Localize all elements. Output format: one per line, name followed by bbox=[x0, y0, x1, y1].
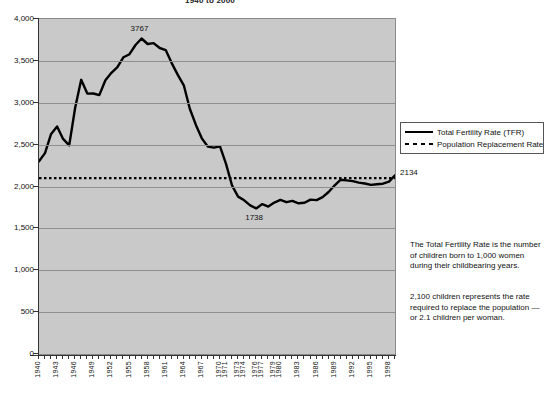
x-axis-tick bbox=[159, 355, 160, 359]
legend-item-tfr: Total Fertility Rate (TFR) bbox=[405, 126, 539, 138]
x-axis-tick bbox=[74, 355, 75, 359]
x-axis-tick bbox=[328, 355, 329, 359]
x-axis-tick bbox=[38, 355, 39, 359]
x-axis-tick bbox=[189, 355, 190, 359]
x-axis-tick bbox=[213, 355, 214, 359]
x-axis-tick bbox=[147, 355, 148, 359]
x-axis-tick bbox=[56, 355, 57, 359]
x-axis-tick bbox=[116, 355, 117, 359]
x-axis-tick bbox=[346, 355, 347, 359]
legend-line-dashed-icon bbox=[405, 139, 433, 149]
x-axis-tick bbox=[382, 355, 383, 359]
x-axis-tick bbox=[171, 355, 172, 359]
x-axis-label: 1949 bbox=[88, 361, 95, 378]
y-axis-tick bbox=[33, 186, 38, 187]
x-axis-label: 1971 bbox=[221, 361, 228, 378]
x-axis-tick bbox=[104, 355, 105, 359]
x-axis-tick bbox=[291, 355, 292, 359]
x-axis-label: 1952 bbox=[106, 361, 113, 378]
x-axis-label: 1995 bbox=[366, 361, 373, 378]
x-axis-tick bbox=[249, 355, 250, 359]
x-axis-tick bbox=[310, 355, 311, 359]
x-axis-label: 1977 bbox=[257, 361, 264, 378]
y-axis-tick bbox=[33, 60, 38, 61]
y-axis-label: 0 bbox=[0, 349, 34, 358]
x-axis-tick bbox=[129, 355, 130, 359]
x-axis-tick bbox=[165, 355, 166, 359]
x-axis-label: 1967 bbox=[197, 361, 204, 378]
x-axis-tick bbox=[50, 355, 51, 359]
x-axis-tick bbox=[135, 355, 136, 359]
y-axis-label: 3,500 bbox=[0, 55, 34, 64]
y-axis-label: 4,000 bbox=[0, 14, 34, 23]
gridline bbox=[39, 270, 395, 271]
x-axis-tick bbox=[376, 355, 377, 359]
data-label-peak: 3767 bbox=[131, 24, 149, 33]
x-axis-tick bbox=[68, 355, 69, 359]
legend: Total Fertility Rate (TFR) Population Re… bbox=[400, 122, 544, 154]
x-axis-tick bbox=[86, 355, 87, 359]
x-axis-label: 1998 bbox=[384, 361, 391, 378]
x-axis-tick bbox=[322, 355, 323, 359]
legend-label-tfr: Total Fertility Rate (TFR) bbox=[437, 128, 524, 137]
legend-line-solid-icon bbox=[405, 127, 433, 137]
gridline bbox=[39, 103, 395, 104]
data-label-end: 2134 bbox=[400, 168, 418, 177]
y-axis-tick bbox=[33, 227, 38, 228]
x-axis-tick bbox=[316, 355, 317, 359]
x-axis-tick bbox=[195, 355, 196, 359]
chart-title: 1940 to 2000 bbox=[0, 0, 420, 5]
x-axis-label: 1983 bbox=[293, 361, 300, 378]
x-axis-label: 1958 bbox=[143, 361, 150, 378]
x-axis-label: 1955 bbox=[125, 361, 132, 378]
x-axis-tick bbox=[364, 355, 365, 359]
x-axis-tick bbox=[273, 355, 274, 359]
x-axis-tick bbox=[98, 355, 99, 359]
y-axis-label: 1,500 bbox=[0, 223, 34, 232]
data-label-trough: 1738 bbox=[245, 213, 263, 222]
x-axis-tick bbox=[394, 355, 395, 359]
y-axis-label: 500 bbox=[0, 307, 34, 316]
x-axis-tick bbox=[44, 355, 45, 359]
y-axis-tick bbox=[33, 311, 38, 312]
x-axis-label: 1964 bbox=[179, 361, 186, 378]
x-axis-tick bbox=[110, 355, 111, 359]
x-axis-tick bbox=[122, 355, 123, 359]
x-axis-label: 1946 bbox=[70, 361, 77, 378]
gridline bbox=[39, 312, 395, 313]
x-axis-tick bbox=[177, 355, 178, 359]
x-axis-label: 1989 bbox=[330, 361, 337, 378]
x-axis-tick bbox=[352, 355, 353, 359]
x-axis-tick bbox=[303, 355, 304, 359]
x-axis-tick bbox=[358, 355, 359, 359]
y-axis-tick bbox=[33, 144, 38, 145]
y-axis-label: 3,000 bbox=[0, 97, 34, 106]
x-axis-tick bbox=[201, 355, 202, 359]
y-axis-label: 1,000 bbox=[0, 265, 34, 274]
x-axis-tick bbox=[231, 355, 232, 359]
x-axis-tick bbox=[334, 355, 335, 359]
x-axis-tick bbox=[219, 355, 220, 359]
x-axis-tick bbox=[297, 355, 298, 359]
gridline bbox=[39, 187, 395, 188]
x-axis-ticks: 1940194319461949195219551958196119641967… bbox=[38, 355, 396, 360]
x-axis-tick bbox=[62, 355, 63, 359]
x-axis-tick bbox=[80, 355, 81, 359]
x-axis-label: 1986 bbox=[312, 361, 319, 378]
x-axis-tick bbox=[92, 355, 93, 359]
y-axis-label: 2,000 bbox=[0, 181, 34, 190]
x-axis-tick bbox=[255, 355, 256, 359]
x-axis-tick bbox=[153, 355, 154, 359]
x-axis-tick bbox=[267, 355, 268, 359]
x-axis-tick bbox=[243, 355, 244, 359]
x-axis-tick bbox=[279, 355, 280, 359]
x-axis-tick bbox=[370, 355, 371, 359]
x-axis-label: 1943 bbox=[52, 361, 59, 378]
x-axis-tick bbox=[285, 355, 286, 359]
y-axis-label: 2,500 bbox=[0, 139, 34, 148]
x-axis-label: 1940 bbox=[34, 361, 41, 378]
note-tfr-definition: The Total Fertility Rate is the number o… bbox=[410, 240, 544, 272]
x-axis-tick bbox=[207, 355, 208, 359]
y-axis-tick bbox=[33, 353, 38, 354]
x-axis-label: 1961 bbox=[161, 361, 168, 378]
